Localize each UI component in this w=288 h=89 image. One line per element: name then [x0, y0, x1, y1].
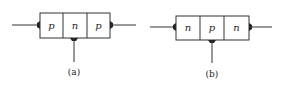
region-label: p: [48, 20, 55, 31]
caption: (a): [68, 67, 80, 77]
transistor-diagrams: p n p (a) n p n (b): [0, 0, 288, 89]
region-label: n: [72, 20, 78, 31]
caption: (b): [206, 69, 219, 79]
npn-structure-diagram: n p n (b): [150, 16, 272, 79]
region-label: n: [185, 22, 191, 33]
region-label: p: [209, 22, 216, 33]
region-label: p: [95, 20, 102, 31]
region-label: n: [233, 22, 239, 33]
pnp-structure-diagram: p n p (a): [12, 13, 136, 77]
